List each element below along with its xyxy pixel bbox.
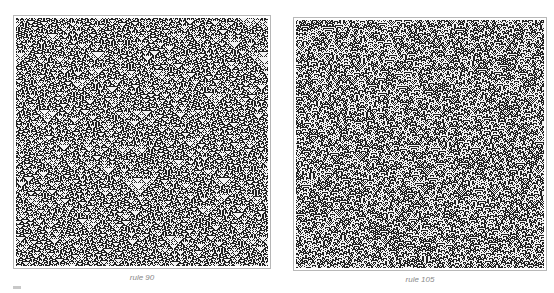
cellular-automaton-panel-rule-105 [293,17,547,271]
cellular-automaton-panel-rule-90 [13,15,271,269]
caption-rule-90: rule 90 [13,273,271,282]
rule-105-pattern [296,20,544,268]
rule-90-pattern [16,18,268,266]
cropped-text-fragment [13,286,21,289]
caption-rule-105: rule 105 [293,275,547,284]
